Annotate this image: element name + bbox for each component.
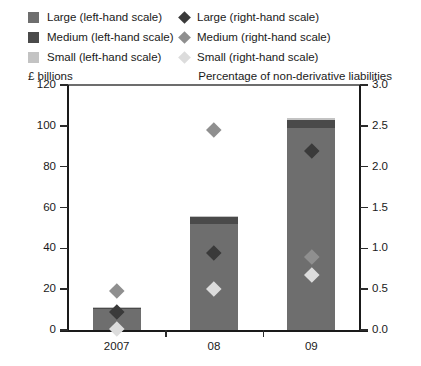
bar-segment <box>287 120 335 128</box>
left-tick <box>60 288 68 289</box>
legend-column-right: Large (right-hand scale) Medium (right-h… <box>178 8 331 68</box>
left-tick <box>60 207 68 208</box>
bar-segment <box>190 217 238 224</box>
square-swatch-icon <box>28 12 39 23</box>
left-tick <box>60 166 68 167</box>
chart-legend: Large (left-hand scale) Medium (left-han… <box>0 0 421 72</box>
right-tick-label: 0.5 <box>372 283 388 294</box>
right-tick <box>360 248 368 249</box>
legend-label: Large (left-hand scale) <box>47 11 162 23</box>
legend-label: Small (right-hand scale) <box>197 51 318 63</box>
x-axis-label: 2007 <box>104 340 130 352</box>
right-tick-label: 3.0 <box>372 79 388 90</box>
right-tick-label: 2.5 <box>372 120 388 131</box>
diamond-marker-09 <box>304 267 319 282</box>
diamond-marker-08 <box>207 245 222 260</box>
right-tick <box>360 207 368 208</box>
diamond-marker-08 <box>207 122 222 137</box>
diamond-marker-08 <box>207 282 222 297</box>
diamond-marker-09 <box>304 143 319 158</box>
right-tick-label: 2.0 <box>372 161 388 172</box>
square-swatch-icon <box>28 32 39 43</box>
legend-label: Large (right-hand scale) <box>197 11 319 23</box>
right-tick-label: 1.5 <box>372 202 388 213</box>
diamond-marker-2007 <box>109 283 124 298</box>
right-axis-caption: Percentage of non-derivative liabilities <box>198 70 392 82</box>
legend-item-small-left: Small (left-hand scale) <box>28 48 174 66</box>
left-tick <box>60 125 68 126</box>
right-tick-label: 1.0 <box>372 242 388 253</box>
bar-08 <box>190 216 238 330</box>
square-swatch-icon <box>28 52 39 63</box>
x-axis-line <box>60 330 368 332</box>
left-tick-label: 40 <box>43 242 56 253</box>
plot-area <box>68 85 360 330</box>
right-tick <box>360 166 368 167</box>
right-tick <box>360 288 368 289</box>
left-tick <box>60 84 68 85</box>
left-tick-label: 120 <box>37 79 56 90</box>
bar-segment <box>287 118 335 120</box>
legend-item-medium-right: Medium (right-hand scale) <box>178 28 331 46</box>
legend-item-medium-left: Medium (left-hand scale) <box>28 28 174 46</box>
left-tick-label: 100 <box>37 120 56 131</box>
left-tick <box>60 329 68 330</box>
diamond-marker-icon <box>178 51 191 64</box>
diamond-marker-2007 <box>109 305 124 320</box>
x-axis-label: 08 <box>208 340 221 352</box>
bar-segment <box>190 224 238 330</box>
legend-item-large-left: Large (left-hand scale) <box>28 8 174 26</box>
x-axis-tick <box>165 330 166 337</box>
right-tick <box>360 125 368 126</box>
diamond-marker-icon <box>178 31 191 44</box>
left-tick-label: 60 <box>43 202 56 213</box>
left-tick-label: 80 <box>43 161 56 172</box>
right-tick <box>360 329 368 330</box>
legend-column-left: Large (left-hand scale) Medium (left-han… <box>28 8 174 68</box>
legend-item-small-right: Small (right-hand scale) <box>178 48 331 66</box>
legend-label: Small (left-hand scale) <box>47 51 161 63</box>
legend-label: Medium (left-hand scale) <box>47 31 174 43</box>
diamond-marker-09 <box>304 249 319 264</box>
legend-label: Medium (right-hand scale) <box>197 31 331 43</box>
left-tick-label: 20 <box>43 283 56 294</box>
right-tick-label: 0.0 <box>372 324 388 335</box>
left-tick-label: 0 <box>50 324 56 335</box>
right-tick <box>360 84 368 85</box>
left-tick <box>60 248 68 249</box>
legend-item-large-right: Large (right-hand scale) <box>178 8 331 26</box>
x-axis-tick <box>263 330 264 337</box>
x-axis-label: 09 <box>305 340 318 352</box>
diamond-marker-icon <box>178 11 191 24</box>
bar-segment <box>190 216 238 217</box>
chart-figure: Large (left-hand scale) Medium (left-han… <box>0 0 421 366</box>
diamond-marker-2007 <box>109 321 124 336</box>
